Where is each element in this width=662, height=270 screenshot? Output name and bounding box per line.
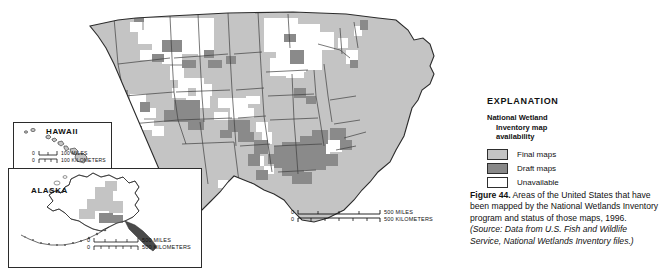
main-scale-km-label: 500 KILOMETERS bbox=[384, 216, 433, 223]
hawaii-label: HAWAII bbox=[46, 127, 78, 136]
legend-label-final-maps: Final maps bbox=[517, 150, 556, 159]
legend-swatch-final-maps bbox=[487, 149, 508, 160]
main-scale-miles-ticks bbox=[297, 209, 381, 216]
hawaii-scalebar: 0 100 MILES 0 bbox=[32, 150, 106, 164]
alaska-scalebar: 0 500 MILES 0 bbox=[87, 237, 191, 251]
figure-caption-source: (Source: Data from U.S. Fish and Wildlif… bbox=[470, 224, 634, 245]
hawaii-scale-miles-ticks bbox=[38, 150, 58, 157]
legend-swatch-draft-maps bbox=[487, 163, 508, 174]
legend-swatch-unavailable bbox=[487, 177, 508, 188]
alaska-scale-miles-ticks bbox=[93, 237, 139, 244]
alaska-label: ALASKA bbox=[31, 186, 68, 195]
figure-number: Figure 44. bbox=[470, 190, 511, 200]
legend: EXPLANATION National Wetland Inventory m… bbox=[487, 96, 607, 191]
alaska-scale-km-label: 500 KILOMETERS bbox=[142, 244, 191, 251]
legend-subtitle-line1: National Wetland bbox=[487, 113, 548, 122]
legend-title: EXPLANATION bbox=[487, 96, 607, 106]
main-scale-km-ticks bbox=[297, 216, 381, 223]
main-scale-miles-label: 500 MILES bbox=[384, 209, 413, 216]
legend-item-draft-maps: Draft maps bbox=[487, 163, 607, 174]
legend-subtitle-line3: availability bbox=[487, 132, 607, 142]
legend-subtitle-line2: Inventory map bbox=[487, 123, 607, 133]
figure-caption: Figure 44. Areas of the United States th… bbox=[470, 190, 660, 247]
alaska-scale-miles-label: 500 MILES bbox=[142, 237, 171, 244]
legend-item-unavailable: Unavailable bbox=[487, 177, 607, 188]
legend-item-final-maps: Final maps bbox=[487, 149, 607, 160]
legend-label-unavailable: Unavailable bbox=[517, 178, 559, 187]
hawaii-scale-miles-label: 100 MILES bbox=[61, 150, 88, 157]
hawaii-inset: HAWAII 0 100 MILES 0 bbox=[13, 122, 112, 170]
alaska-scale-km-ticks bbox=[93, 244, 139, 251]
legend-subtitle: National Wetland Inventory map availabil… bbox=[487, 113, 607, 142]
figure-44: 0 500 MILES 0 bbox=[0, 0, 662, 270]
legend-label-draft-maps: Draft maps bbox=[517, 164, 556, 173]
hawaii-scale-km-label: 100 KILOMETERS bbox=[61, 157, 106, 164]
alaska-inset: ALASKA 0 500 MILES 0 bbox=[8, 168, 202, 268]
hawaii-scale-km-ticks bbox=[38, 157, 58, 164]
main-map-scalebar: 0 500 MILES 0 bbox=[291, 209, 433, 223]
